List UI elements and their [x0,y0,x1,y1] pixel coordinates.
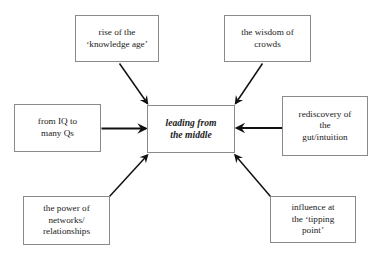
arrow-top-left-to-center [120,64,148,104]
diagram-canvas: rise of the ‘knowledge age’ the wisdom o… [0,0,382,255]
node-label: rediscovery of the gut/intuition [296,109,355,144]
node-label: the wisdom of crowds [238,27,297,50]
node-rise-of-the-knowledge-age: rise of the ‘knowledge age’ [75,15,159,62]
node-influence-at-the-tipping-point: influence at the ‘tipping point’ [270,196,356,243]
node-the-power-of-networks-relationships: the power of networks/ relationships [23,196,110,245]
node-label: from IQ to many Qs [35,116,80,139]
center-node-label: leading from the middle [163,117,220,141]
arrow-top-right-to-center [236,64,263,104]
node-label: influence at the ‘tipping point’ [288,202,337,237]
node-the-wisdom-of-crowds: the wisdom of crowds [224,15,311,62]
arrow-bottom-right-to-center [235,155,271,197]
node-leading-from-the-middle: leading from the middle [147,105,235,153]
node-rediscovery-of-the-gut-intuition: rediscovery of the gut/intuition [282,96,368,156]
node-label: rise of the ‘knowledge age’ [83,27,150,50]
node-from-iq-to-many-qs: from IQ to many Qs [14,104,101,152]
node-label: the power of networks/ relationships [40,203,93,238]
arrow-bottom-left-to-center [110,155,148,197]
